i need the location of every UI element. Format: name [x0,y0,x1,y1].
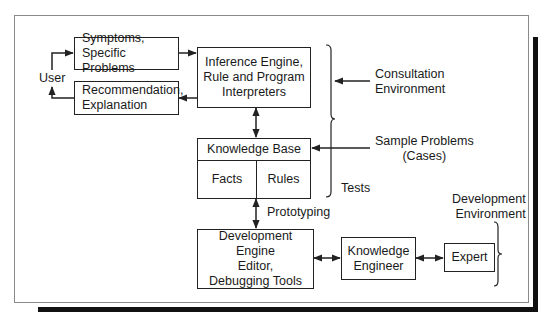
prototyping-label: Prototyping [267,205,330,220]
development-environment-label: Development Environment [452,192,526,222]
arrow-user-to-symptoms [52,53,73,70]
inference-engine-box: Inference Engine, Rule and Program Inter… [197,47,311,108]
facts-cell: Facts [198,161,257,198]
rules-cell: Rules [257,161,310,198]
expert-box: Expert [444,243,495,272]
knowledge-base-title: Knowledge Base [198,139,310,161]
consultation-environment-label: Consultation Environment [375,67,445,97]
sample-problems-label: Sample Problems (Cases) [375,134,474,164]
development-engine-box: Development Engine Editor, Debugging Too… [197,229,314,289]
symptoms-box: Symptoms, Specific Problems [74,37,179,70]
user-label: User [39,71,65,86]
knowledge-engineer-box: Knowledge Engineer [341,237,416,280]
arrow-recommendation-to-user [52,87,74,98]
knowledge-base-box: Knowledge Base Facts Rules [197,138,311,199]
consultation-brace [326,45,335,197]
tests-label: Tests [341,181,370,196]
recommendation-box: Recommendation, Explanation [74,81,179,115]
development-brace [494,222,502,286]
